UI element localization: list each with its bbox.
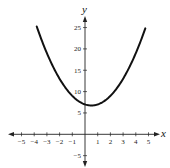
- x-axis-label: x: [160, 127, 166, 139]
- y-tick-label: 15: [74, 67, 82, 75]
- y-axis-label: y: [81, 3, 87, 15]
- parabola-chart: −5−4−3−2−112345−5510152025 x y: [0, 0, 170, 168]
- x-tick-label: 1: [96, 138, 100, 146]
- y-axis-arrow-down-icon: [83, 161, 87, 167]
- x-tick-label: −2: [56, 138, 64, 146]
- x-tick-label: −1: [69, 138, 77, 146]
- y-tick-label: 20: [74, 45, 82, 53]
- x-tick-label: 4: [134, 138, 138, 146]
- x-tick-label: 2: [109, 138, 113, 146]
- tick-labels: −5−4−3−2−112345−5510152025: [18, 24, 151, 160]
- y-tick-label: −5: [74, 152, 82, 160]
- parabola-curve: [37, 27, 146, 106]
- y-tick-label: 10: [74, 88, 82, 96]
- y-tick-label: 5: [78, 109, 82, 117]
- x-tick-label: 3: [121, 138, 125, 146]
- y-tick-label: 25: [74, 24, 82, 32]
- x-tick-label: −5: [18, 138, 26, 146]
- x-axis-arrow-left-icon: [8, 132, 14, 136]
- x-axis-arrow-right-icon: [154, 132, 160, 136]
- x-tick-label: 5: [147, 138, 151, 146]
- y-axis-arrow-up-icon: [83, 16, 87, 22]
- x-tick-label: −4: [30, 138, 38, 146]
- x-tick-label: −3: [43, 138, 51, 146]
